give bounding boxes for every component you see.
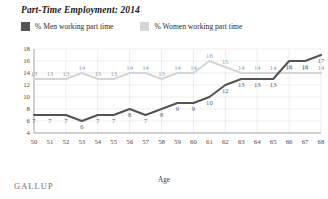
y-axis-tick-label: 4: [27, 129, 31, 136]
data-label-women: 14: [142, 64, 149, 71]
legend-label-men: % Men working part time: [35, 22, 113, 31]
data-label-women: 14: [190, 64, 197, 71]
data-label-men: 12: [222, 87, 229, 94]
y-axis-tick-label: 18: [23, 45, 30, 52]
data-label-women: 15: [222, 58, 229, 65]
y-axis-tick-label: 10: [23, 93, 30, 100]
data-label-women: 14: [174, 64, 181, 71]
data-label-women: 14: [238, 64, 245, 71]
x-axis-tick-label: 62: [222, 138, 229, 145]
x-axis-tick-label: 67: [302, 138, 309, 145]
data-label-women: 13: [94, 70, 101, 77]
data-label-women: 13: [47, 70, 54, 77]
gallup-logo: GALLUP: [14, 182, 54, 191]
data-label-women: 14: [126, 64, 133, 71]
data-label-men: 13: [238, 81, 245, 88]
x-axis-tick-label: 50: [31, 138, 38, 145]
data-label-men: 13: [254, 81, 261, 88]
x-axis-tick-label: 52: [62, 138, 69, 145]
legend-swatch-men-icon: [21, 22, 30, 31]
legend-item-men[interactable]: % Men working part time: [21, 22, 113, 31]
x-axis-tick-label: 58: [158, 138, 165, 145]
data-label-women: 14: [254, 64, 261, 71]
x-axis-tick-label: 53: [78, 138, 85, 145]
x-axis-tick-label: 54: [94, 138, 101, 145]
line-chart-svg: 4681012141618777677878991012131313161617…: [0, 43, 328, 155]
x-axis-tick-label: 64: [254, 138, 261, 145]
y-axis-tick-label: 14: [23, 69, 30, 76]
x-axis-tick-label: 51: [47, 138, 54, 145]
data-label-men: 8: [160, 111, 164, 118]
data-label-women: 13: [63, 70, 70, 77]
x-axis-tick-label: 60: [190, 138, 197, 145]
data-label-men: 10: [206, 99, 213, 106]
data-label-women: 16: [206, 52, 213, 59]
data-label-women: 13: [158, 70, 165, 77]
data-label-women: 14: [318, 64, 325, 71]
x-axis-tick-label: 63: [238, 138, 245, 145]
chart-legend: % Men working part time % Women working …: [21, 22, 242, 31]
data-label-women: 14: [270, 64, 277, 71]
y-axis-tick-label: 6: [27, 117, 31, 124]
data-label-men: 13: [270, 81, 277, 88]
legend-item-women[interactable]: % Women working part time: [140, 22, 242, 31]
data-label-men: 6: [80, 123, 84, 130]
data-label-men: 8: [128, 111, 132, 118]
x-axis-tick-label: 57: [142, 138, 149, 145]
x-axis-tick-label: 55: [110, 138, 117, 145]
data-label-women: 13: [31, 70, 38, 77]
x-axis-tick-label: 59: [174, 138, 181, 145]
chart-title: Part-Time Employment: 2014: [21, 5, 140, 15]
y-axis-tick-label: 8: [27, 105, 31, 112]
x-axis-tick-label: 65: [270, 138, 277, 145]
x-axis-tick-label: 56: [126, 138, 133, 145]
data-label-women: 14: [286, 64, 293, 71]
y-axis-tick-label: 12: [23, 81, 30, 88]
y-axis-tick-label: 16: [23, 57, 30, 64]
x-axis-tick-label: 66: [286, 138, 293, 145]
data-label-women: 13: [110, 70, 117, 77]
x-axis-tick-label: 68: [318, 138, 325, 145]
chart-card: Part-Time Employment: 2014 % Men working…: [0, 0, 328, 199]
data-label-women: 14: [79, 64, 86, 71]
plot-area: 4681012141618777677878991012131313161617…: [0, 43, 328, 155]
legend-label-women: % Women working part time: [154, 22, 242, 31]
legend-swatch-women-icon: [140, 22, 149, 31]
data-label-women: 14: [302, 64, 309, 71]
x-axis-tick-label: 61: [206, 138, 213, 145]
